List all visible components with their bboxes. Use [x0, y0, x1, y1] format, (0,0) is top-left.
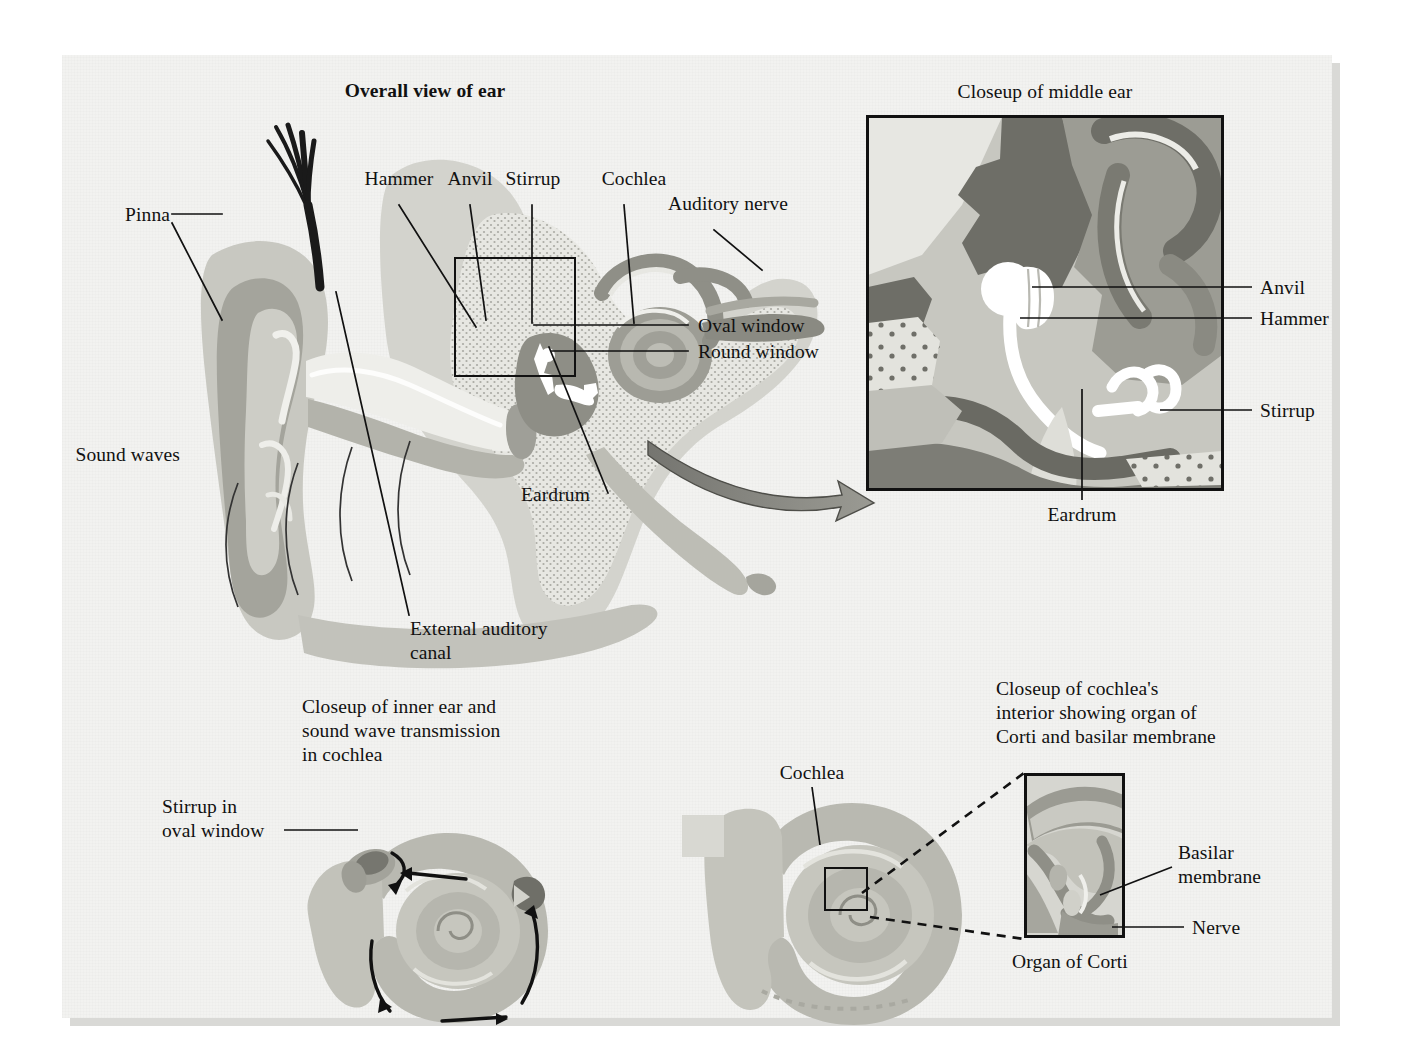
label-basilar-membrane-line1: Basilar — [1178, 841, 1234, 864]
overall-view-title: Overall view of ear — [305, 79, 545, 102]
label-organ-of-corti: Organ of Corti — [1012, 950, 1128, 973]
middle-ear-closeup-frame — [866, 115, 1224, 491]
inner-ear-closeup-title-line2: sound wave transmission — [302, 719, 500, 742]
overall-view-inset-frame — [454, 257, 576, 377]
overall-cochlea — [608, 307, 712, 403]
label-stirrup-in-oval-window-line2: oval window — [162, 819, 264, 842]
label-anvil-closeup: Anvil — [1260, 276, 1305, 299]
label-cochlea: Cochlea — [582, 167, 686, 190]
label-external-auditory-canal-line2: canal — [410, 641, 452, 664]
sound-wave-arcs — [226, 441, 410, 607]
label-stirrup-closeup: Stirrup — [1260, 399, 1315, 422]
label-cochlea-bottom: Cochlea — [756, 761, 868, 784]
label-external-auditory-canal-line1: External auditory — [410, 617, 548, 640]
inner-ear-closeup-title-line3: in cochlea — [302, 743, 383, 766]
middle-ear-closeup-title: Closeup of middle ear — [925, 80, 1165, 103]
cochlea-interior-title-line1: Closeup of cochlea's — [996, 677, 1159, 700]
hair-tuft — [268, 125, 320, 287]
label-eardrum-closeup: Eardrum — [1022, 503, 1142, 526]
zoom-arrow — [648, 441, 874, 521]
label-basilar-membrane-line2: membrane — [1178, 865, 1261, 888]
label-stirrup: Stirrup — [490, 167, 576, 190]
inner-ear-cochlea-illustration — [307, 833, 548, 1025]
label-oval-window: Oval window — [698, 314, 805, 337]
figure-page: Overall view of ear Closeup of middle ea… — [62, 55, 1332, 1018]
label-auditory-nerve: Auditory nerve — [668, 192, 788, 215]
organ-of-corti-frame — [1024, 773, 1125, 938]
label-hammer-closeup: Hammer — [1260, 307, 1329, 330]
cochlea-illustration — [682, 803, 962, 1025]
cochlea-inset-frame — [824, 867, 868, 911]
label-round-window: Round window — [698, 340, 819, 363]
label-eardrum-overall: Eardrum — [521, 483, 590, 506]
label-sound-waves: Sound waves — [12, 443, 180, 466]
expansion-dashed-lines — [862, 773, 1024, 939]
cochlea-interior-title-line2: interior showing organ of — [996, 701, 1197, 724]
label-nerve: Nerve — [1192, 916, 1240, 939]
cochlea-interior-title-line3: Corti and basilar membrane — [996, 725, 1216, 748]
label-pinna: Pinna — [52, 203, 170, 226]
label-stirrup-in-oval-window-line1: Stirrup in — [162, 795, 237, 818]
inner-ear-closeup-title-line1: Closeup of inner ear and — [302, 695, 496, 718]
